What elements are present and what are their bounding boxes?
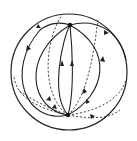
sphere-diagram: Flow lines on a sphere between two poles	[0, 0, 137, 141]
south-pole-node	[66, 113, 70, 117]
arrow-heads	[26, 24, 109, 119]
front-flow-line	[59, 25, 70, 115]
north-pole-node	[68, 23, 72, 27]
front-flow-line	[22, 23, 70, 116]
front-flow-line	[68, 25, 72, 115]
sphere-figure	[0, 0, 137, 141]
back-flow-line	[48, 15, 68, 115]
